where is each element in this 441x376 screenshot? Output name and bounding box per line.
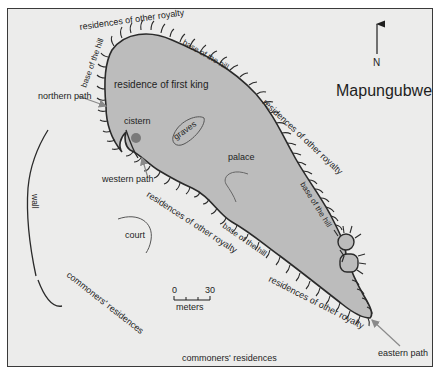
north-label: N	[373, 57, 380, 68]
label-residence-first-king: residence of first king	[114, 79, 209, 90]
scale-max-label: 30	[205, 285, 215, 295]
scale-bar	[174, 296, 210, 300]
scale-unit-label: meters	[176, 302, 204, 312]
label-palace: palace	[228, 152, 255, 162]
label-base-left: base of the hill	[79, 37, 105, 89]
cistern-marker	[131, 133, 141, 143]
label-western-path: western path	[101, 174, 154, 184]
label-royalty-top: residences of other royalty	[79, 7, 185, 32]
label-commoners-bottom: commoners' residences	[182, 353, 277, 363]
label-commoners-left: commoners' residences	[65, 270, 146, 337]
scale-min-label: 0	[172, 285, 177, 295]
wall-line-lower	[38, 280, 62, 306]
mapungubwe-site-map: N Mapungubwe residence of first king cis…	[0, 0, 441, 376]
label-cistern: cistern	[124, 116, 151, 126]
east-knob-upper	[338, 234, 354, 250]
east-knob-lower	[340, 254, 358, 272]
label-wall: wall	[30, 193, 40, 209]
map-title: Mapungubwe	[336, 82, 432, 99]
label-northern-path: northern path	[38, 91, 92, 101]
eastern-path-arrow	[372, 320, 400, 346]
label-eastern-path: eastern path	[378, 348, 428, 358]
label-court: court	[125, 230, 146, 240]
map-drawing: N Mapungubwe residence of first king cis…	[0, 0, 441, 376]
